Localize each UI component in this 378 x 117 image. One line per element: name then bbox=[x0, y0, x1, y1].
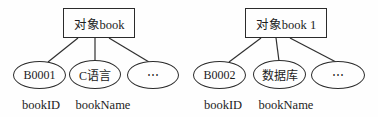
attribute-label: bookName bbox=[71, 98, 135, 113]
attribute-label: bookID bbox=[18, 98, 64, 113]
attribute-value-node: 数据库 bbox=[253, 60, 306, 89]
edge-left-3 bbox=[109, 38, 149, 62]
diagram-canvas: 对象book B0001 C语言 ⋯ bookID bookName 对象boo… bbox=[0, 0, 378, 117]
attribute-value-node: C语言 bbox=[69, 60, 121, 89]
ellipsis-node: ⋯ bbox=[311, 61, 365, 89]
object-node: 对象book bbox=[63, 8, 135, 38]
edge-right-3 bbox=[290, 38, 336, 62]
attribute-label: bookName bbox=[254, 98, 318, 113]
edge-left-1 bbox=[48, 38, 78, 62]
ellipsis-node: ⋯ bbox=[127, 61, 179, 89]
object-node: 对象book 1 bbox=[245, 8, 327, 38]
attribute-value-node: B0001 bbox=[13, 61, 66, 89]
edge-right-2 bbox=[276, 38, 279, 61]
attribute-value-node: B0002 bbox=[193, 61, 246, 89]
attribute-label: bookID bbox=[200, 98, 246, 113]
edge-right-1 bbox=[229, 38, 261, 62]
